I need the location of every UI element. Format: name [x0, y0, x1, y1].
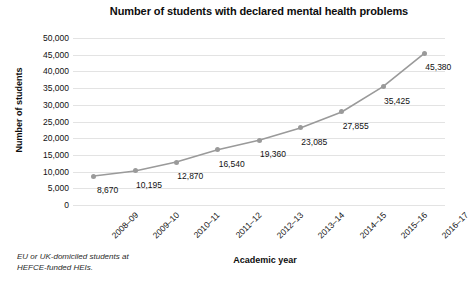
data-point-value: 19,360: [260, 149, 286, 159]
x-tick-label: 2016–17: [440, 210, 469, 240]
x-tick-label: 2011–12: [233, 210, 263, 240]
line-series: [73, 38, 445, 205]
chart-container: Number of students with declared mental …: [0, 0, 469, 289]
chart-title: Number of students with declared mental …: [73, 5, 445, 17]
gridline: [73, 205, 445, 206]
data-point-value: 27,855: [343, 121, 369, 131]
data-point-marker: [422, 51, 427, 56]
y-tick-label: 35,000: [0, 83, 69, 93]
data-point-marker: [381, 84, 386, 89]
x-tick-label: 2014–15: [357, 210, 387, 240]
data-point-marker: [257, 138, 262, 143]
y-tick-label: 10,000: [0, 167, 69, 177]
x-tick-label: 2008–09: [109, 210, 139, 240]
y-tick-label: 50,000: [0, 33, 69, 43]
data-point-marker: [174, 160, 179, 165]
data-point-marker: [91, 174, 96, 179]
y-tick-label: 5,000: [0, 183, 69, 193]
data-point-value: 16,540: [219, 159, 245, 169]
x-tick-label: 2015–16: [399, 210, 429, 240]
y-tick-label: 30,000: [0, 100, 69, 110]
data-point-value: 23,085: [301, 137, 327, 147]
y-tick-label: 15,000: [0, 150, 69, 160]
y-tick-label: 25,000: [0, 117, 69, 127]
y-tick-label: 45,000: [0, 50, 69, 60]
footnote: EU or UK-domiciled students at HEFCE-fun…: [17, 252, 167, 273]
data-point-value: 35,425: [384, 96, 410, 106]
plot-area: 8,67010,19512,87016,54019,36023,08527,85…: [73, 38, 445, 205]
y-tick-label: 20,000: [0, 133, 69, 143]
footnote-line-2: HEFCE-funded HEIs.: [17, 263, 93, 272]
x-tick-label: 2012–13: [275, 210, 305, 240]
y-tick-label: 0: [0, 200, 69, 210]
x-tick-label: 2013–14: [316, 210, 346, 240]
x-tick-label: 2010–11: [192, 210, 222, 240]
data-point-value: 45,380: [425, 62, 451, 72]
data-point-value: 12,870: [177, 171, 203, 181]
y-tick-label: 40,000: [0, 66, 69, 76]
data-point-value: 8,670: [97, 185, 118, 195]
x-axis-title: Academic year: [185, 255, 345, 265]
footnote-line-1: EU or UK-domiciled students at: [17, 252, 129, 261]
data-point-value: 10,195: [136, 180, 162, 190]
x-tick-label: 2009–10: [151, 210, 181, 240]
series-line: [94, 53, 425, 176]
